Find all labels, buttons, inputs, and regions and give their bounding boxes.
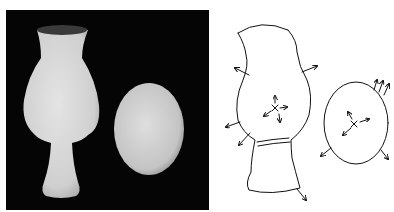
sketch-panel xyxy=(209,0,394,212)
vase-shape xyxy=(23,27,99,199)
figure: Grayscale photograph of a white vase-sha… xyxy=(0,0,394,212)
photo-image xyxy=(6,10,209,210)
photo-panel xyxy=(6,10,209,210)
vase-outline xyxy=(226,25,317,200)
sketch-drawing xyxy=(209,0,394,212)
egg-outline xyxy=(321,80,389,164)
egg-shape xyxy=(114,83,184,175)
